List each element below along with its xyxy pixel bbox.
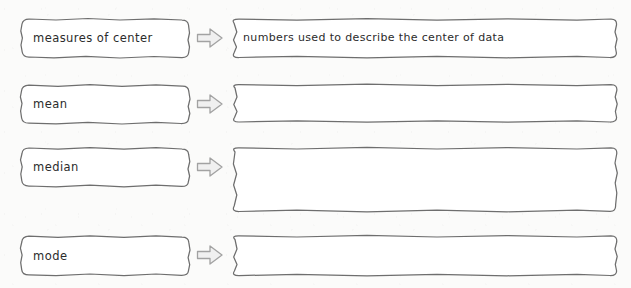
term-box-mean[interactable]: mean (16, 82, 192, 126)
right-arrow-icon (196, 26, 224, 50)
term-box-mode[interactable]: mode (16, 233, 192, 278)
worksheet-row: mean (0, 82, 631, 126)
right-arrow-icon (196, 155, 224, 179)
definition-box-outline (227, 145, 621, 215)
term-label: mode (33, 248, 178, 262)
definition-box-mean[interactable] (227, 82, 621, 124)
term-box-measures-of-center[interactable]: measures of center (16, 16, 192, 60)
definition-box-measures-of-center[interactable]: numbers used to describe the center of d… (227, 16, 621, 60)
right-arrow-icon (196, 92, 224, 116)
vocabulary-worksheet: measures of center numbers used to descr… (0, 0, 631, 288)
term-label: median (33, 160, 178, 174)
term-box-median[interactable]: median (16, 145, 192, 189)
term-label: mean (33, 97, 178, 111)
definition-box-outline (227, 82, 621, 124)
worksheet-row: median (0, 145, 631, 215)
definition-box-median[interactable] (227, 145, 621, 215)
worksheet-row: measures of center numbers used to descr… (0, 16, 631, 60)
worksheet-row: mode (0, 233, 631, 278)
right-arrow-icon (196, 243, 224, 267)
definition-box-outline (227, 233, 621, 278)
definition-label: numbers used to describe the center of d… (243, 31, 607, 45)
definition-box-mode[interactable] (227, 233, 621, 278)
term-label: measures of center (33, 31, 178, 45)
